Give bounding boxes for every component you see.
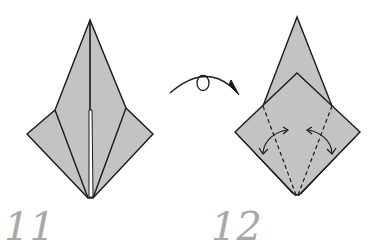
origami-diagram [0,0,385,245]
step-11-figure [27,20,153,198]
step-number-11: 11 [4,206,55,245]
step-11-center-slit [89,110,93,197]
step-number-12: 12 [211,206,262,245]
turn-over-arrow-icon [170,76,239,96]
step-12-diamond [235,73,360,195]
step-12-figure [235,17,360,195]
